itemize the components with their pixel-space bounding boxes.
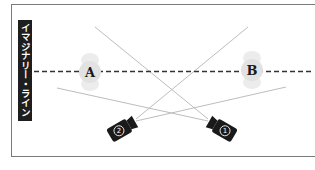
subject-b-label: B <box>247 63 258 78</box>
camera-2: 2 <box>106 115 139 142</box>
camera-2-number: 2 <box>117 127 121 135</box>
diagram-canvas: A B 2 1 <box>0 0 315 170</box>
subject-a: A <box>79 53 101 91</box>
sight-line <box>136 27 248 119</box>
sight-line <box>95 27 208 119</box>
subject-a-label: A <box>84 65 96 80</box>
sight-line <box>57 88 208 121</box>
camera-1: 1 <box>205 115 238 142</box>
subject-b: B <box>241 51 263 89</box>
sight-line <box>136 87 286 121</box>
camera-2-sight-lines <box>136 27 286 121</box>
camera-1-number: 1 <box>223 127 227 135</box>
